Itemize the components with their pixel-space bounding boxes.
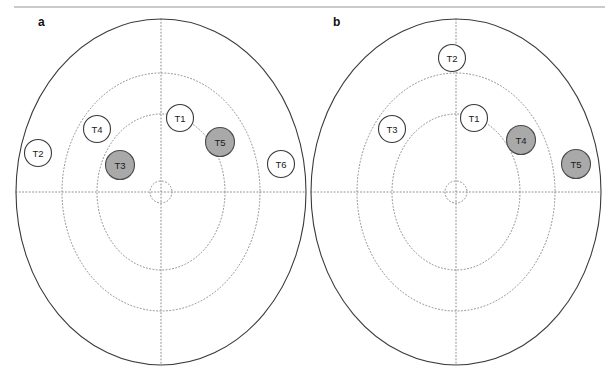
marker-b-t4[interactable]: T4	[507, 126, 536, 155]
marker-b-t2[interactable]: T2	[439, 45, 466, 72]
panel-b: bT1T2T3T4T5	[311, 15, 601, 365]
figure-canvas: aT1T2T3T4T5T6bT1T2T3T4T5	[0, 0, 616, 375]
marker-label-t4: T4	[91, 124, 102, 135]
marker-a-t6[interactable]: T6	[268, 151, 295, 178]
panels-group: aT1T2T3T4T5T6bT1T2T3T4T5	[16, 15, 601, 365]
marker-a-t5[interactable]: T5	[206, 128, 235, 157]
marker-label-t3: T3	[114, 160, 125, 171]
marker-label-t2: T2	[446, 53, 457, 64]
marker-label-t5: T5	[214, 137, 225, 148]
marker-label-t2: T2	[32, 148, 43, 159]
marker-b-t3[interactable]: T3	[379, 116, 406, 143]
marker-label-t1: T1	[174, 113, 185, 124]
figure-root: aT1T2T3T4T5T6bT1T2T3T4T5	[0, 0, 616, 375]
panel-label-a: a	[38, 15, 45, 29]
marker-label-t3: T3	[386, 124, 397, 135]
marker-a-t1[interactable]: T1	[167, 105, 194, 132]
marker-a-t2[interactable]: T2	[25, 140, 52, 167]
marker-b-t1[interactable]: T1	[461, 105, 488, 132]
panel-label-b: b	[333, 15, 340, 29]
marker-label-t4: T4	[515, 135, 526, 146]
marker-a-t4[interactable]: T4	[84, 116, 111, 143]
panel-a: aT1T2T3T4T5T6	[16, 15, 306, 365]
marker-a-t3[interactable]: T3	[106, 151, 135, 180]
marker-b-t5[interactable]: T5	[562, 150, 591, 179]
marker-label-t5: T5	[570, 159, 581, 170]
marker-label-t6: T6	[275, 159, 286, 170]
marker-label-t1: T1	[468, 113, 479, 124]
